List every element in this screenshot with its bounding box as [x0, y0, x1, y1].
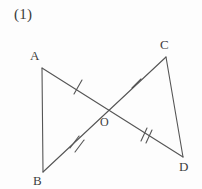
vertex-label-A: A [30, 49, 39, 62]
vertex-label-O: O [100, 116, 109, 128]
vertex-label-C: C [160, 38, 169, 51]
segment-group [42, 57, 183, 172]
segment-AD [42, 68, 183, 157]
geometry-figure: (1) A B C D O [0, 0, 202, 189]
vertex-label-D: D [179, 160, 188, 173]
segment-AB [42, 68, 43, 172]
diagram-canvas [0, 0, 202, 189]
tick-OD-1 [141, 128, 147, 141]
tick-CO [132, 79, 141, 88]
tick-OB-2 [75, 140, 84, 152]
tick-OB-1 [70, 136, 79, 148]
segment-CD [166, 57, 183, 157]
tick-mark-group [70, 79, 152, 152]
vertex-label-B: B [33, 174, 42, 187]
